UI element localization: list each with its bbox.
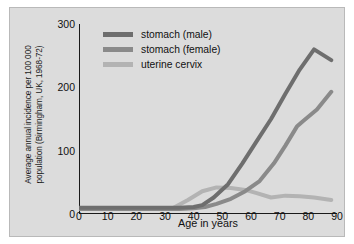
y-axis-tick-label: 100: [35, 145, 75, 157]
x-axis-title: Age in years: [79, 217, 337, 229]
y-axis-tick-label: 300: [35, 18, 75, 30]
plot-area: 01002003000102030405060708090: [79, 24, 337, 214]
y-axis-title: Average annual incidence per 100 000 pop…: [23, 30, 44, 200]
chart-figure: Average annual incidence per 100 000 pop…: [9, 7, 345, 237]
chart-canvas: [79, 24, 337, 214]
y-axis-tick-label: 200: [35, 81, 75, 93]
